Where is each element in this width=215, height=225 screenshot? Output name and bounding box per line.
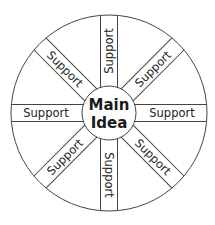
main-idea-label-line1: Main — [89, 96, 130, 114]
spoke-label-right: Support — [149, 106, 195, 120]
spoke-label-left: Support — [23, 106, 69, 120]
main-idea-label-line2: Idea — [91, 114, 128, 132]
spoke-label-top: Support — [102, 28, 116, 74]
spoke-label-bottom: Support — [102, 152, 116, 198]
main-idea-wheel-diagram: Main Idea Support Support Support Suppor… — [0, 0, 215, 225]
